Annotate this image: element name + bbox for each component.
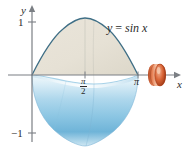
y-axis-arrowhead: [29, 5, 35, 12]
x-tick-label-half-pi: π 2: [80, 77, 87, 97]
figure-canvas: [0, 0, 189, 152]
half-pi-numerator: π: [80, 77, 87, 86]
equation-lhs: y: [107, 21, 112, 35]
disk-highlight: [157, 67, 161, 74]
equation-rhs: sin x: [125, 21, 147, 35]
x-axis-label: x: [177, 79, 182, 90]
figure-solid-of-revolution: y x 1 −1 π π 2 y = sin x: [0, 0, 189, 152]
disk-front-face: [155, 64, 165, 86]
y-axis-label: y: [21, 5, 26, 16]
representative-disk: [148, 64, 166, 86]
y-tick-label-neg-1: −1: [11, 128, 23, 139]
y-tick-label-1: 1: [18, 17, 24, 28]
curve-equation-label: y = sin x: [107, 22, 147, 34]
equation-equals: =: [115, 21, 122, 35]
half-pi-denominator: 2: [80, 87, 87, 96]
x-tick-label-pi: π: [134, 77, 139, 87]
